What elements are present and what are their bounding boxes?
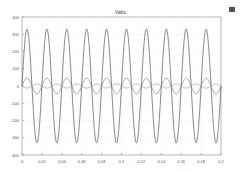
x-tick-label: 0.06: [78, 159, 87, 164]
x-tick-label: 0.2: [218, 159, 224, 164]
x-tick-label: 0.08: [98, 159, 107, 164]
y-tick-label: 0: [17, 84, 20, 89]
chart-title: Vabc: [0, 9, 241, 15]
x-tick-label: 0.18: [197, 159, 206, 164]
x-tick-label: 0.14: [157, 159, 166, 164]
x-tick-label: 0.16: [177, 159, 186, 164]
x-tick-label: 0.12: [138, 159, 147, 164]
undock-icon[interactable]: [229, 7, 235, 12]
line-chart: 4003002001000-100-200-300-400 00.020.040…: [0, 0, 241, 172]
y-tick-label: 400: [12, 15, 19, 20]
x-tick-label: 0.04: [58, 159, 67, 164]
y-tick-label: -300: [11, 135, 20, 140]
y-tick-label: -200: [11, 118, 20, 123]
y-tick-label: 100: [12, 66, 19, 71]
x-tick-label: 0.02: [38, 159, 47, 164]
y-tick-label: -100: [11, 101, 20, 106]
x-tick-label: 0.1: [119, 159, 125, 164]
y-tick-label: 200: [12, 49, 19, 54]
x-tick-label: 0: [21, 159, 24, 164]
y-tick-label: 300: [12, 32, 19, 37]
y-tick-label: -400: [11, 153, 20, 158]
